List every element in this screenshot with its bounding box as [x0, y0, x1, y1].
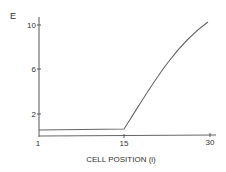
- x-axis: [39, 135, 216, 136]
- data-line: [39, 22, 208, 130]
- y-tick-label-2: 2: [32, 110, 37, 119]
- y-tick-label-6: 6: [32, 65, 37, 74]
- chart: E 10 6 2 1 15 30 CELL POSITION (i): [0, 0, 226, 172]
- x-tick-label-30: 30: [206, 138, 215, 147]
- y-axis-label: E: [10, 11, 16, 21]
- x-axis-label: CELL POSITION (i): [86, 155, 156, 164]
- x-tick-label-1: 1: [36, 139, 41, 148]
- x-tick-label-15: 15: [120, 139, 129, 148]
- y-tick-label-10: 10: [27, 21, 36, 30]
